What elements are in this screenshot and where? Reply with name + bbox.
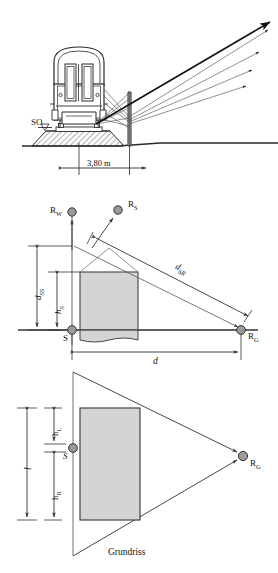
panel-top [22, 22, 278, 175]
caption-grundriss: Grundriss [108, 548, 145, 558]
label-distance-380m: 3,80 m [87, 159, 111, 168]
dimension-d-ss [28, 246, 72, 330]
label-hr-sub: R [55, 491, 62, 495]
figure-container: SO 3,80 m RW RS RG S dSR dSS hS d S RG l… [0, 0, 278, 573]
label-h-r: hR [51, 491, 62, 500]
label-length-total: l [24, 467, 34, 470]
label-source-middle: S [63, 334, 68, 343]
label-h-s: hS [54, 306, 65, 314]
label-receiver-ground: RG [248, 332, 259, 343]
track-rails [56, 124, 102, 132]
panel-middle [18, 206, 258, 360]
label-rw-sub: W [56, 210, 62, 217]
label-hl-sub: L [55, 428, 62, 432]
object-block-plan [80, 408, 140, 520]
principal-ray [96, 22, 270, 124]
label-receiver-ground-plan: RG [250, 459, 261, 470]
label-d-ss: dSS [34, 289, 45, 300]
label-source-plan: S [63, 452, 68, 461]
label-dss-sub: SS [38, 289, 45, 296]
label-receiver-mirror: RS [128, 200, 138, 211]
source-node-middle [68, 326, 77, 335]
dimension-h-r [44, 452, 66, 520]
object-block-elevation [80, 248, 138, 342]
diagram-canvas [0, 0, 278, 573]
label-rg-sub: G [254, 336, 259, 343]
label-receiver-wall: RW [50, 206, 62, 217]
label-d-horizontal: d [153, 357, 158, 367]
label-hs-base: h [53, 310, 63, 315]
receiver-ground-node-plan [238, 451, 247, 460]
dimension-h-s [48, 272, 80, 330]
railway-car [50, 47, 108, 127]
track-ballast [32, 131, 124, 146]
label-rs-sub: S [134, 204, 138, 211]
dimension-h-l [44, 408, 66, 444]
receiver-mirror-node [92, 206, 122, 248]
label-hl-base: h [50, 432, 60, 437]
label-dss-base: d [33, 296, 43, 301]
source-node-plan [69, 444, 78, 453]
label-hs-sub: S [58, 306, 65, 309]
panel-bottom [17, 372, 248, 556]
label-hr-base: h [50, 496, 60, 501]
label-rg-plan-sub: G [256, 463, 261, 470]
label-rail-top: SO [31, 118, 43, 127]
reflected-sound-rays [96, 30, 268, 128]
label-h-l: hL [51, 428, 62, 436]
receiver-wall-node [68, 208, 76, 250]
dimension-l [17, 408, 37, 520]
